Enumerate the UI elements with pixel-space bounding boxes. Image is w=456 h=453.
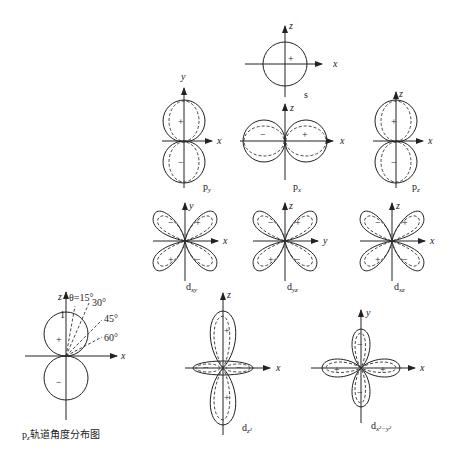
y-axis-label: y bbox=[322, 235, 328, 246]
x-axis-label: x bbox=[427, 135, 433, 146]
sign-left: − bbox=[203, 362, 209, 373]
angle-label-45: 45° bbox=[104, 313, 118, 324]
orbital-label-dxy: dxy bbox=[186, 281, 198, 294]
sign-bottom: + bbox=[224, 392, 230, 403]
orbital-label-dz2: dz² bbox=[242, 422, 253, 435]
dxz-orbital-diagram: − + + − x z dxz bbox=[360, 200, 435, 294]
atomic-orbital-angular-distribution-figure: + x z s + − x y py − + x z px bbox=[0, 0, 456, 453]
orbital-label-pz: pz bbox=[412, 181, 420, 194]
sign-bottom: − bbox=[357, 387, 363, 398]
sign-plus: + bbox=[56, 334, 62, 345]
dx2-y2-orbital-diagram: − + + − x y dx²−y² bbox=[311, 307, 425, 433]
dz2-orbital-diagram: + + − − x z dz² bbox=[185, 289, 281, 435]
angle-label-60: 60° bbox=[104, 332, 118, 343]
z-axis-label: z bbox=[57, 291, 62, 302]
pz-angular-distribution-plot: z x 1 θ=15° 30° 45° 60° + − pz轨道角度分布图 bbox=[22, 291, 126, 442]
dxy-orbital-diagram: − + + − x y dxy bbox=[153, 200, 228, 294]
lobe-upper-right bbox=[285, 211, 317, 241]
sign-minus: − bbox=[260, 129, 266, 140]
orbital-label-dyz: dyz bbox=[287, 281, 298, 294]
sign-plus: + bbox=[288, 53, 294, 64]
unit-mark: 1 bbox=[60, 309, 65, 320]
y-axis-label: y bbox=[365, 307, 371, 318]
dyz-orbital-diagram: − + + − y z dyz bbox=[253, 200, 328, 294]
sign-upper-right: + bbox=[402, 217, 408, 228]
lobe-upper-right bbox=[392, 211, 424, 241]
sign-lower-right: − bbox=[402, 254, 408, 265]
sign-lower-right: − bbox=[195, 254, 201, 265]
x-axis-label: x bbox=[222, 235, 228, 246]
lobe-upper-right bbox=[185, 211, 217, 241]
angle-label-15: θ=15° bbox=[69, 292, 93, 303]
sign-right: − bbox=[236, 362, 242, 373]
z-axis-label: z bbox=[288, 20, 293, 31]
sign-minus: − bbox=[391, 157, 397, 168]
sign-plus: + bbox=[391, 116, 397, 127]
sign-right: + bbox=[380, 364, 386, 375]
sign-minus: − bbox=[56, 377, 62, 388]
sign-left: + bbox=[334, 364, 340, 375]
sign-upper-right: + bbox=[195, 217, 201, 228]
y-axis-label: y bbox=[188, 200, 194, 211]
py-orbital-diagram: + − x y py bbox=[162, 71, 222, 194]
sign-lower-left: + bbox=[168, 254, 174, 265]
plot-caption: pz轨道角度分布图 bbox=[22, 428, 100, 442]
z-axis-label: z bbox=[395, 200, 400, 211]
x-axis-label: x bbox=[339, 135, 345, 146]
sign-top: + bbox=[224, 325, 230, 336]
ray-30deg bbox=[66, 303, 89, 356]
sign-minus: − bbox=[178, 157, 184, 168]
z-axis-label: z bbox=[288, 200, 293, 211]
px-orbital-diagram: − + x z px bbox=[240, 102, 345, 194]
y-axis-label: y bbox=[180, 71, 186, 82]
z-axis-label: z bbox=[398, 88, 403, 99]
dashed-lobe bbox=[214, 316, 230, 368]
orbital-label-s: s bbox=[304, 89, 308, 100]
sign-upper-right: + bbox=[295, 217, 301, 228]
sign-upper-left: − bbox=[375, 217, 381, 228]
sign-upper-left: − bbox=[168, 217, 174, 228]
z-axis-label: z bbox=[226, 289, 231, 300]
x-axis-label: x bbox=[419, 362, 425, 373]
z-axis-label: z bbox=[289, 102, 294, 113]
x-axis-label: x bbox=[332, 58, 338, 69]
x-axis-label: x bbox=[216, 135, 222, 146]
sign-upper-left: − bbox=[268, 217, 274, 228]
sign-lower-left: + bbox=[268, 254, 274, 265]
lobe-lower-right bbox=[285, 241, 317, 271]
orbital-label-dx2-y2: dx²−y² bbox=[371, 420, 392, 433]
x-axis-label: x bbox=[120, 350, 126, 361]
ray-60deg bbox=[66, 337, 102, 356]
orbital-label-dxz: dxz bbox=[394, 281, 405, 294]
lobe-lower-right bbox=[392, 241, 424, 271]
sign-plus: + bbox=[178, 116, 184, 127]
sign-top: − bbox=[357, 339, 363, 350]
s-orbital-diagram: + x z s bbox=[245, 20, 338, 100]
orbital-label-px: px bbox=[293, 181, 302, 194]
angle-label-30: 30° bbox=[92, 297, 106, 308]
x-axis-label: x bbox=[275, 362, 281, 373]
sign-lower-left: + bbox=[375, 254, 381, 265]
sign-plus: + bbox=[302, 129, 308, 140]
sign-lower-right: − bbox=[295, 254, 301, 265]
pz-orbital-diagram: + − x z pz bbox=[373, 88, 433, 194]
lobe-lower-right bbox=[185, 241, 217, 271]
orbital-label-py: py bbox=[203, 181, 212, 194]
x-axis-label: x bbox=[429, 235, 435, 246]
